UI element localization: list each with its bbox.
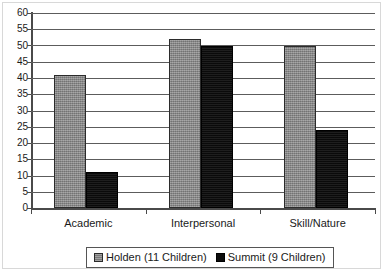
plot-area xyxy=(31,13,375,208)
legend-item-label: Summit (9 Children) xyxy=(228,251,326,264)
bar xyxy=(54,75,86,208)
black-square-swatch xyxy=(216,253,225,262)
x-axis-category-label: Skill/Nature xyxy=(260,216,375,230)
y-axis-labels: 605550454035302520151050 xyxy=(0,0,28,275)
y-axis-tick-label: 50 xyxy=(2,41,28,51)
y-axis-tick-label: 30 xyxy=(2,106,28,116)
y-axis-tick-label: 5 xyxy=(2,187,28,197)
bar xyxy=(169,39,201,208)
y-axis-tick-label: 60 xyxy=(2,8,28,18)
chart-legend: Holden (11 Children)Summit (9 Children) xyxy=(86,247,334,268)
y-axis-tick-label: 20 xyxy=(2,138,28,148)
x-axis-ticks xyxy=(31,208,375,216)
y-axis-tick-label: 25 xyxy=(2,122,28,132)
x-axis-labels: AcademicInterpersonalSkill/Nature xyxy=(31,216,375,232)
legend-item-label: Holden (11 Children) xyxy=(106,251,207,264)
legend-item: Summit (9 Children) xyxy=(216,251,326,264)
y-axis-tick-label: 35 xyxy=(2,89,28,99)
bar xyxy=(201,46,233,209)
bar-group xyxy=(31,13,375,208)
y-axis-tick-label: 15 xyxy=(2,154,28,164)
x-axis-tick-mark xyxy=(260,208,261,214)
bar xyxy=(86,172,118,208)
bar xyxy=(284,46,316,209)
legend-item: Holden (11 Children) xyxy=(94,251,207,264)
y-axis-tick-label: 40 xyxy=(2,73,28,83)
y-axis-tick-label: 0 xyxy=(2,203,28,213)
x-axis-tick-mark xyxy=(146,208,147,214)
x-axis-category-label: Academic xyxy=(31,216,146,230)
bar xyxy=(316,130,348,208)
bar-chart: 605550454035302520151050 AcademicInterpe… xyxy=(0,0,387,275)
y-axis-tick-label: 45 xyxy=(2,57,28,67)
gray-square-swatch xyxy=(94,253,103,262)
x-axis-category-label: Interpersonal xyxy=(146,216,261,230)
x-axis-tick-mark xyxy=(31,208,32,214)
x-axis-tick-mark xyxy=(375,208,376,214)
y-axis-tick-label: 55 xyxy=(2,24,28,34)
y-axis-tick-label: 10 xyxy=(2,171,28,181)
